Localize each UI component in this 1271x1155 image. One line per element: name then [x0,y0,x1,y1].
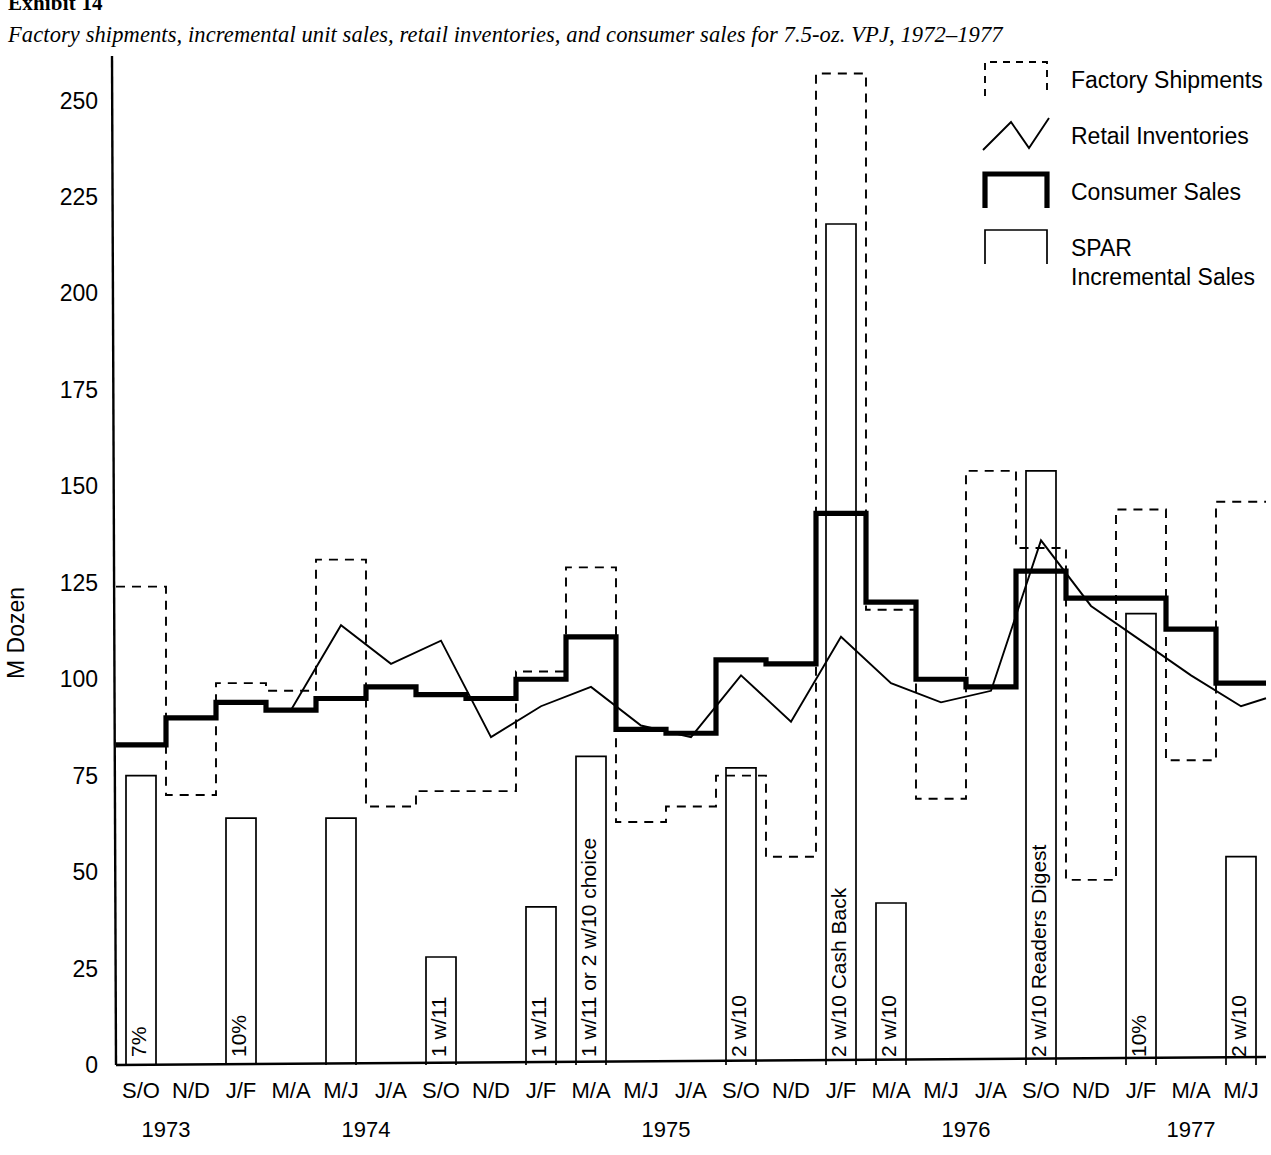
x-tick-label-11: J/A [675,1078,707,1103]
spar-bar-annotation-20: 10% [1127,1015,1150,1057]
x-axis-ticks: S/ON/DJ/FM/AM/JJ/AS/ON/DJ/FM/AM/JJ/AS/ON… [122,1078,1259,1103]
consumer-sales-step [116,513,1266,744]
x-axis-year-1974: 1974 [342,1117,391,1142]
y-tick-label-250: 250 [60,88,98,114]
x-tick-label-6: S/O [422,1078,460,1103]
x-tick-label-15: M/A [871,1078,910,1103]
chart-svg: 0255075100125150175200225250 7%10%1 w/11… [0,0,1271,1155]
x-tick-label-3: M/A [271,1078,310,1103]
series-consumer-sales [116,513,1266,744]
y-tick-label-225: 225 [60,184,98,210]
spar-bar-annotation-22: 2 w/10 [1227,995,1250,1057]
x-axis-year-1977: 1977 [1167,1117,1216,1142]
spar-bar-4 [326,818,356,1065]
x-axis-year-1973: 1973 [142,1117,191,1142]
x-tick-label-1: N/D [172,1078,210,1103]
spar-bar-annotation-18: 2 w/10 Readers Digest [1027,844,1050,1057]
spar-bar-annotation-12: 2 w/10 [727,995,750,1057]
spar-bar-annotation-9: 1 w/11 or 2 w/10 choice [577,838,600,1057]
x-tick-label-17: J/A [975,1078,1007,1103]
x-tick-label-9: M/A [571,1078,610,1103]
y-axis-title: M Dozen [3,587,29,679]
legend-marker-dashed-box [985,62,1047,96]
chart-canvas: 0255075100125150175200225250 7%10%1 w/11… [0,0,1271,1155]
y-axis-line [112,56,116,1065]
x-tick-label-21: M/A [1171,1078,1210,1103]
x-tick-label-0: S/O [122,1078,160,1103]
spar-bar-annotation-2: 10% [227,1015,250,1057]
y-tick-label-125: 125 [60,570,98,596]
y-axis-ticks: 0255075100125150175200225250 [60,88,98,1078]
x-tick-label-22: M/J [1223,1078,1258,1103]
series-retail-inventories [291,540,1266,737]
x-tick-label-2: J/F [226,1078,257,1103]
x-tick-label-13: N/D [772,1078,810,1103]
x-tick-label-10: M/J [623,1078,658,1103]
x-tick-label-19: N/D [1072,1078,1110,1103]
axes-group [112,56,1266,1065]
y-tick-label-150: 150 [60,473,98,499]
legend-item-2: Consumer Sales [985,174,1241,208]
y-tick-label-175: 175 [60,377,98,403]
legend-label-1: Retail Inventories [1071,123,1249,149]
x-tick-label-8: J/F [526,1078,557,1103]
spar-bar-0 [126,776,156,1065]
y-tick-label-0: 0 [85,1052,98,1078]
legend-item-1: Retail Inventories [983,118,1249,150]
legend-marker-thin-box [985,230,1047,264]
spar-bar-labels-group: 7%10%1 w/111 w/111 w/11 or 2 w/10 choice… [127,838,1250,1057]
legend-label-3-line0: SPAR [1071,235,1132,261]
legend-label-2: Consumer Sales [1071,179,1241,205]
legend-marker-zigzag-line [983,118,1049,150]
spar-bar-annotation-6: 1 w/11 [427,997,450,1057]
x-tick-label-20: J/F [1126,1078,1157,1103]
y-tick-label-200: 200 [60,280,98,306]
spar-bars-group [126,224,1256,1065]
x-axis-year-1976: 1976 [942,1117,991,1142]
spar-bar-annotation-15: 2 w/10 [877,995,900,1057]
y-axis-title-text: M Dozen [3,587,29,679]
x-tick-label-4: M/J [323,1078,358,1103]
legend-item-0: Factory Shipments [985,62,1263,96]
x-tick-label-5: J/A [375,1078,407,1103]
spar-bar-annotation-8: 1 w/11 [527,997,550,1057]
x-tick-label-18: S/O [1022,1078,1060,1103]
x-tick-label-16: M/J [923,1078,958,1103]
y-tick-label-100: 100 [60,666,98,692]
x-axis-year-1975: 1975 [642,1117,691,1142]
x-tick-label-7: N/D [472,1078,510,1103]
legend-label-0: Factory Shipments [1071,67,1263,93]
x-axis-line [116,1057,1266,1065]
spar-bar-annotation-0: 7% [127,1027,150,1057]
chart-legend: Factory ShipmentsRetail InventoriesConsu… [983,62,1263,290]
spar-bar-20 [1126,614,1156,1065]
retail-inventories-line [291,540,1266,737]
x-tick-label-14: J/F [826,1078,857,1103]
legend-item-3: SPARIncremental Sales [985,230,1255,290]
y-tick-label-25: 25 [72,956,98,982]
spar-bar-annotation-14: 2 w/10 Cash Back [827,887,850,1057]
x-tick-label-12: S/O [722,1078,760,1103]
x-axis-year-labels: 19731974197519761977 [142,1117,1216,1142]
y-tick-label-75: 75 [72,763,98,789]
legend-marker-thick-box [985,174,1047,208]
y-tick-label-50: 50 [72,859,98,885]
legend-label-3-line1: Incremental Sales [1071,264,1255,290]
